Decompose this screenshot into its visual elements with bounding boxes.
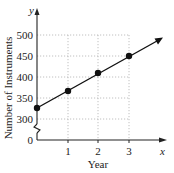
data-point-0 xyxy=(34,105,40,111)
data-point-3 xyxy=(126,53,132,59)
y-tick-400: 400 xyxy=(17,71,34,83)
y-axis-arrow-icon xyxy=(35,8,40,15)
x-tick-3: 3 xyxy=(126,145,132,157)
data-point-2 xyxy=(95,70,101,76)
y-tick-300: 300 xyxy=(17,113,34,125)
x-axis-arrow-icon xyxy=(159,138,167,143)
y-axis-title: Number of Instruments xyxy=(2,37,14,140)
data-point-1 xyxy=(65,88,71,94)
y-tick-500: 500 xyxy=(17,29,34,41)
line-chart: 500 450 400 350 300 0 1 2 3 y x Year Num… xyxy=(0,0,174,173)
gridlines xyxy=(37,35,129,140)
x-axis-var: x xyxy=(159,145,165,157)
y-axis xyxy=(34,14,40,140)
x-axis-title: Year xyxy=(88,158,109,170)
y-tick-0: 0 xyxy=(28,134,34,146)
x-tick-2: 2 xyxy=(95,145,101,157)
y-axis-var: y xyxy=(28,4,34,16)
y-tick-350: 350 xyxy=(17,92,34,104)
y-tick-450: 450 xyxy=(17,50,34,62)
x-tick-labels: 1 2 3 xyxy=(65,145,132,157)
x-tick-1: 1 xyxy=(65,145,71,157)
y-tick-labels: 500 450 400 350 300 0 xyxy=(17,29,34,146)
